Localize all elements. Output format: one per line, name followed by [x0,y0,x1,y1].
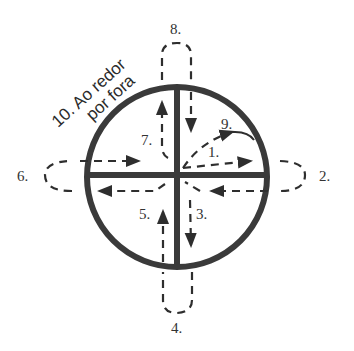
path-step-7 [162,103,168,158]
path-step-5-to-6 [100,184,165,191]
path-step-2 [280,161,305,191]
label-step-9: 9. [221,116,232,132]
circle-cross-path-diagram: 1. 2. 3. 4. 5. 6. 7. 8. 9. 10. Ao redor … [0,0,354,351]
circle-cross-shape [87,87,267,267]
path-step-8 [162,43,191,80]
label-step-6: 6. [17,168,28,184]
label-step-7: 7. [141,132,152,148]
label-step-4: 4. [171,320,182,336]
path-step-2-join [185,182,200,191]
label-step-5: 5. [139,206,150,222]
label-step-8: 8. [170,21,181,37]
path-step-9-tail [232,132,254,140]
path-step-4 [163,272,192,313]
label-step-3: 3. [196,206,207,222]
label-step-1: 1. [208,144,219,160]
label-step-2: 2. [319,168,330,184]
path-step-3 [190,200,191,245]
path-step-6 [45,161,72,191]
path-step-1 [183,161,250,168]
